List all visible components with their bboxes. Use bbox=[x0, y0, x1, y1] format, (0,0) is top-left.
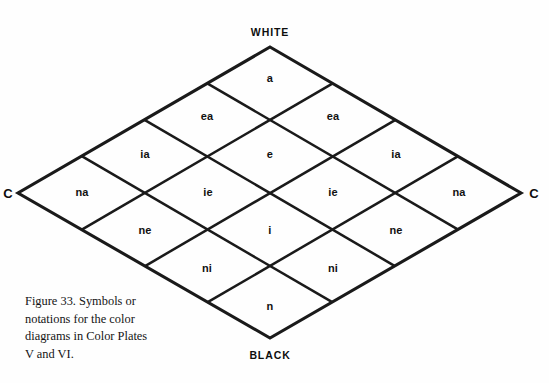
cell-label-i-center: i bbox=[268, 224, 271, 236]
figure-caption-line-4: V and VI. bbox=[25, 346, 205, 364]
cell-label-ne-right: ne bbox=[389, 224, 402, 236]
figure-caption-line-1: Figure 33. Symbols or bbox=[25, 293, 205, 311]
cell-label-ie-right: ie bbox=[328, 186, 338, 198]
cell-label-ia-left: ia bbox=[140, 148, 150, 160]
figure-33-page: WHITE BLACK C C a ea ea ia e ia na ie ie… bbox=[0, 0, 549, 383]
cell-label-e-center: e bbox=[267, 148, 273, 160]
figure-caption-line-3: diagrams in Color Plates bbox=[25, 328, 205, 346]
cell-label-ie-left: ie bbox=[203, 186, 213, 198]
pole-label-black: BLACK bbox=[249, 349, 290, 361]
cell-label-ia-right: ia bbox=[391, 148, 401, 160]
cell-label-ne-left: ne bbox=[138, 224, 151, 236]
cell-label-n-bottom: n bbox=[267, 300, 274, 312]
pole-label-white: WHITE bbox=[251, 26, 289, 38]
cell-label-na-right: na bbox=[452, 186, 465, 198]
cell-label-na-left: na bbox=[75, 186, 88, 198]
cell-label-ea-right: ea bbox=[327, 110, 340, 122]
figure-caption: Figure 33. Symbols or notations for the … bbox=[25, 293, 205, 364]
pole-label-chroma-left: C bbox=[3, 186, 12, 201]
grid-lines-down-left bbox=[82, 83, 458, 302]
cell-label-ni-right: ni bbox=[328, 262, 338, 274]
cell-label-ni-left: ni bbox=[202, 262, 212, 274]
cell-label-a-top: a bbox=[267, 72, 273, 84]
cell-label-ea-left: ea bbox=[201, 110, 214, 122]
pole-label-chroma-right: C bbox=[529, 186, 538, 201]
figure-caption-line-2: notations for the color bbox=[25, 311, 205, 329]
